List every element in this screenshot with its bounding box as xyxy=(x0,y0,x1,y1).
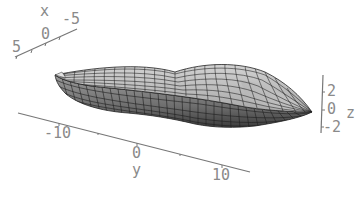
z-tick-label: 2 xyxy=(327,84,336,99)
x-axis-label: x xyxy=(40,4,49,19)
z-tick-label: -2 xyxy=(323,120,341,135)
y-tick-label: 10 xyxy=(212,168,230,183)
y-axis-label: y xyxy=(132,163,141,178)
z-axis-label: z xyxy=(346,106,355,121)
y-tick-label: -10 xyxy=(44,126,71,141)
x-tick-label: 0 xyxy=(41,27,50,42)
surface-plot xyxy=(0,0,364,197)
x-tick-label: -5 xyxy=(62,12,80,27)
y-tick-label: 0 xyxy=(132,146,141,161)
x-tick-label: 5 xyxy=(12,40,21,55)
z-tick-label: 0 xyxy=(327,102,336,117)
